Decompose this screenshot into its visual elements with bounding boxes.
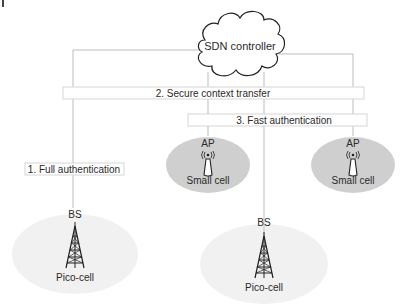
- ap-label: AP: [346, 138, 360, 149]
- small-cell-label: Small cell: [332, 175, 375, 186]
- sdn-controller-label: SDN controller: [204, 40, 276, 52]
- sdn-authentication-diagram: SDN controller 2. Secure context transfe…: [0, 0, 412, 305]
- step-box-secure-context-transfer: 2. Secure context transfer: [63, 87, 364, 99]
- ap-label: AP: [201, 138, 215, 149]
- pico-cell-label: Pico-cell: [245, 282, 283, 293]
- sdn-controller-cloud: SDN controller: [198, 11, 284, 75]
- small-cell-label: Small cell: [187, 175, 230, 186]
- bs-label: BS: [68, 209, 82, 220]
- step-3-label: 3. Fast authentication: [236, 115, 332, 126]
- pico-cell-label: Pico-cell: [56, 272, 94, 283]
- step-1-label: 1. Full authentication: [28, 164, 120, 175]
- step-2-label: 2. Secure context transfer: [156, 88, 271, 99]
- step-box-fast-authentication: 3. Fast authentication: [188, 114, 367, 126]
- bs-label: BS: [257, 217, 271, 228]
- step-box-full-authentication: 1. Full authentication: [25, 163, 124, 175]
